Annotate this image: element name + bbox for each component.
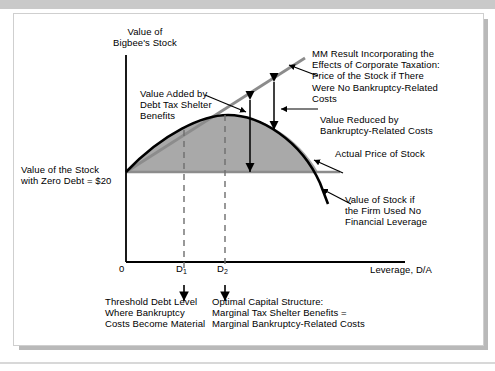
annotation-zero-debt-value: Value of the Stock with Zero Debt = $20 <box>21 164 111 186</box>
y-axis-title: Value ofBigbee's Stock <box>113 26 177 48</box>
x-tick-zero: 0 <box>119 263 124 274</box>
caption-optimal-capital-structure: Optimal Capital Structure: Marginal Tax … <box>212 296 365 330</box>
annotation-mm-result: MM Result Incorporating the Effects of C… <box>312 48 440 104</box>
annotation-value-reduced: Value Reduced by Bankruptcy-Related Cost… <box>320 114 433 136</box>
caption-threshold-debt-level: Threshold Debt Level Where Bankruptcy Co… <box>105 296 205 330</box>
x-tick-d1: D1 <box>176 263 187 275</box>
figure-root: Value ofBigbee's Stock Value Added by De… <box>0 0 495 371</box>
bottom-rule <box>0 362 495 364</box>
x-axis-title: Leverage, D/A <box>370 264 432 275</box>
annotation-value-added: Value Added by Debt Tax Shelter Benefits <box>140 88 212 122</box>
top-grey-band <box>0 0 495 9</box>
shaded-value-added-region <box>126 115 318 172</box>
annotation-actual-price: Actual Price of Stock <box>335 148 425 159</box>
annotation-no-financial-leverage: Value of Stock if the Firm Used No Finan… <box>345 194 427 228</box>
x-tick-d2: D2 <box>217 263 228 275</box>
